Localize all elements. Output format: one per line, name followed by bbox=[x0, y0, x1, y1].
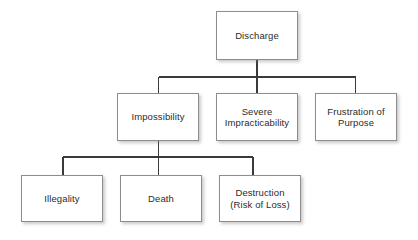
node-impossibility[interactable]: Impossibility bbox=[117, 93, 199, 141]
node-discharge[interactable]: Discharge bbox=[216, 11, 298, 60]
node-frustration-of-purpose-label: Frustration of Purpose bbox=[324, 106, 387, 129]
node-severe-impracticability[interactable]: Severe Impracticability bbox=[216, 93, 298, 141]
node-death-label: Death bbox=[145, 193, 177, 205]
node-illegality[interactable]: Illegality bbox=[21, 175, 103, 222]
node-destruction[interactable]: Destruction (Risk of Loss) bbox=[219, 175, 301, 222]
node-frustration-of-purpose[interactable]: Frustration of Purpose bbox=[315, 93, 397, 141]
node-illegality-label: Illegality bbox=[41, 193, 82, 205]
node-destruction-label: Destruction (Risk of Loss) bbox=[227, 187, 292, 210]
diagram-canvas: Discharge Impossibility Severe Impractic… bbox=[0, 0, 418, 240]
node-severe-impracticability-label: Severe Impracticability bbox=[222, 106, 292, 129]
node-death[interactable]: Death bbox=[120, 175, 202, 222]
node-discharge-label: Discharge bbox=[232, 30, 282, 42]
node-impossibility-label: Impossibility bbox=[128, 111, 187, 123]
